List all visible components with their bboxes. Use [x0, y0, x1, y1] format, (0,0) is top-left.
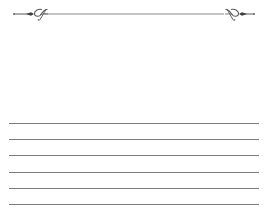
ruled-line [9, 123, 259, 124]
ruled-line [9, 172, 259, 173]
writing-lines-area [9, 0, 259, 222]
ruled-line [9, 204, 259, 205]
ruled-line [9, 155, 259, 156]
ruled-line [9, 139, 259, 140]
ruled-line [9, 188, 259, 189]
